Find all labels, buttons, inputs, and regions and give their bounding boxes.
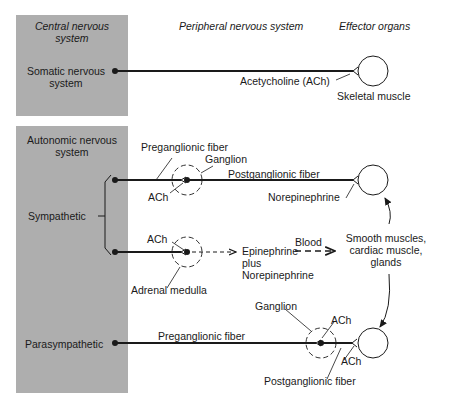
parasympathetic-ganglion-label: Ganglion xyxy=(255,300,297,312)
norepinephrine-label: Norepinephrine xyxy=(268,191,340,203)
header-peripheral: Peripheral nervous system xyxy=(179,20,303,32)
sympathetic-ganglion-label: Ganglion xyxy=(205,153,247,165)
effector-targets-label: Smooth muscles, cardiac muscle, glands xyxy=(342,232,430,268)
adrenal-output-label: Epinephrine plus Norepinephrine xyxy=(242,245,314,281)
skeletal-muscle-circle xyxy=(358,56,388,86)
sympathetic-postganglionic-label: Postganglionic fiber xyxy=(228,168,320,180)
header-central: Central nervous system xyxy=(16,20,128,44)
parasympathetic-label: Parasympathetic xyxy=(25,338,103,350)
parasympathetic-ganglion-ach-label: ACh xyxy=(331,314,351,326)
sympathetic-effector-circle xyxy=(358,165,388,195)
parasympathetic-postganglionic-label: Postganglionic fiber xyxy=(264,375,356,387)
adrenal-ach-label: ACh xyxy=(147,233,167,245)
parasympathetic-effector-ach-label: ACh xyxy=(341,355,361,367)
sympathetic-ach-label: ACh xyxy=(148,191,168,203)
header-effector: Effector organs xyxy=(339,20,410,32)
somatic-label: Somatic nervous system xyxy=(18,65,114,89)
blood-label: Blood xyxy=(295,236,322,248)
sympathetic-preganglionic-label: Preganglionic fiber xyxy=(141,141,228,153)
parasympathetic-preganglionic-label: Preganglionic fiber xyxy=(158,330,245,342)
parasympathetic-effector-circle xyxy=(358,328,388,358)
adrenal-medulla-label: Adrenal medulla xyxy=(131,284,207,296)
skeletal-muscle-label: Skeletal muscle xyxy=(337,90,411,102)
sympathetic-label: Sympathetic xyxy=(28,210,86,222)
autonomic-title: Autonomic nervous system xyxy=(16,134,128,158)
somatic-neurotransmitter: Acetycholine (ACh) xyxy=(240,75,330,87)
